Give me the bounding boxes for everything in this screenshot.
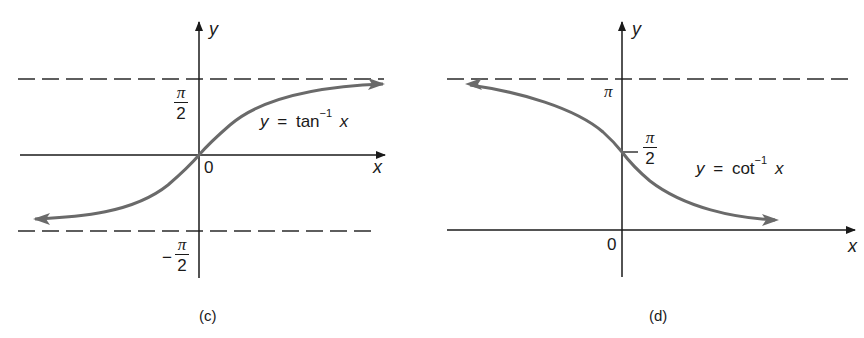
function-label-c: y = tan−1 x (260, 111, 348, 130)
tick-label-neg-pi-over-2-c: π 2 (175, 236, 189, 274)
tick-label-pi-d: π (604, 83, 613, 100)
tick-label-pi-over-2-d: π 2 (643, 129, 657, 167)
x-axis-label-c: x (373, 158, 382, 176)
y-axis-label-c: y (209, 20, 218, 38)
tick-label-pi-over-2-c: π 2 (174, 84, 188, 122)
caption-c: (c) (199, 308, 217, 323)
y-axis-label-d: y (632, 20, 641, 38)
x-axis-label-d: x (848, 237, 857, 255)
tick-label-neg-sign-c: − (162, 249, 172, 266)
origin-label-c: 0 (204, 159, 213, 176)
arctan-curve (35, 84, 383, 219)
origin-label-d: 0 (607, 236, 616, 253)
caption-d: (d) (649, 308, 667, 323)
figure-c (18, 22, 385, 278)
arccot-arrow-left-icon (465, 78, 482, 90)
function-label-d: y = cot−1 x (696, 158, 783, 177)
